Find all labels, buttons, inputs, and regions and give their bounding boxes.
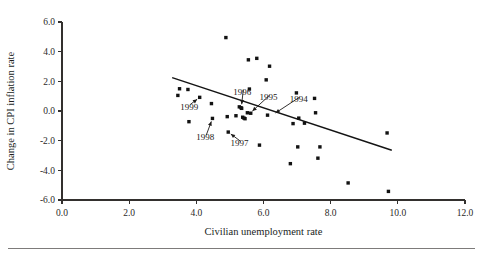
- y-tick-label: 2.0: [43, 77, 55, 87]
- data-point: [264, 78, 267, 81]
- y-tick-label: 0.0: [43, 106, 55, 116]
- x-tick-label: 6.0: [258, 208, 270, 218]
- data-point: [314, 111, 317, 114]
- data-point: [303, 121, 306, 124]
- y-axis-title: Change in CPI inflation rate: [5, 51, 16, 170]
- y-tick-label: 6.0: [43, 17, 55, 27]
- data-point: [313, 97, 316, 100]
- data-point: [243, 117, 246, 120]
- x-tick-label: 0.0: [56, 208, 68, 218]
- y-tick-label: 4.0: [43, 47, 55, 57]
- data-point: [247, 58, 250, 61]
- plot-canvas: -6.0-4.0-2.00.02.04.06.00.02.04.06.08.01…: [0, 0, 483, 257]
- data-point: [178, 87, 181, 90]
- x-tick-label: 2.0: [123, 208, 135, 218]
- data-point: [186, 88, 189, 91]
- scatter-plot-figure: -6.0-4.0-2.00.02.04.06.00.02.04.06.08.01…: [0, 0, 483, 257]
- data-point: [266, 113, 269, 116]
- data-point: [316, 156, 319, 159]
- data-point: [296, 145, 299, 148]
- data-point: [187, 120, 190, 123]
- annotation-label-1998: 1998: [196, 132, 215, 142]
- data-point: [289, 162, 292, 165]
- data-point: [198, 96, 201, 99]
- x-axis-title: Civilian unemployment rate: [205, 226, 323, 237]
- data-point: [268, 65, 271, 68]
- x-tick-label: 12.0: [457, 208, 474, 218]
- data-point: [224, 36, 227, 39]
- annotation-label-1997: 1997: [231, 138, 250, 148]
- x-tick-label: 8.0: [325, 208, 337, 218]
- y-tick-label: -6.0: [40, 195, 55, 205]
- data-point: [210, 102, 213, 105]
- y-tick-label: -2.0: [40, 136, 55, 146]
- data-point: [234, 114, 237, 117]
- data-point: [240, 107, 243, 110]
- annotation-label-1999: 1999: [180, 102, 199, 112]
- data-point: [255, 57, 258, 60]
- annotation-label-1995: 1995: [259, 92, 278, 102]
- data-point: [226, 115, 229, 118]
- axes-group: -6.0-4.0-2.00.02.04.06.00.02.04.06.08.01…: [40, 17, 474, 218]
- data-point: [297, 116, 300, 119]
- data-point: [318, 145, 321, 148]
- data-point: [258, 143, 261, 146]
- y-tick-label: -4.0: [40, 166, 55, 176]
- data-point: [346, 181, 349, 184]
- annotation-arrow-1994: [276, 97, 300, 113]
- data-point: [176, 94, 179, 97]
- data-point: [246, 111, 249, 114]
- data-point: [291, 122, 294, 125]
- annotation-label-1994: 1994: [290, 94, 309, 104]
- data-point: [387, 190, 390, 193]
- data-point: [385, 131, 388, 134]
- data-point: [249, 112, 252, 115]
- x-tick-label: 10.0: [390, 208, 407, 218]
- data-point: [211, 117, 214, 120]
- x-tick-label: 4.0: [190, 208, 202, 218]
- annotation-arrowhead-1994: [276, 109, 281, 113]
- data-point: [227, 130, 230, 133]
